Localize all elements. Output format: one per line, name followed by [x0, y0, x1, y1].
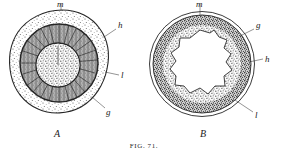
- figure-caption: FIG. 71.: [130, 142, 158, 150]
- panel-b-label-m: m: [196, 0, 203, 9]
- panel-b-caption: B: [200, 128, 206, 139]
- panel-b-label-g: g: [256, 20, 261, 30]
- panel-b-label-h: h: [265, 54, 270, 64]
- figure-illustration: m h l g A: [0, 0, 288, 159]
- panel-a-caption: A: [53, 128, 61, 139]
- panel-a: m h l g A: [0, 0, 140, 139]
- panel-a-label-m: m: [57, 0, 64, 9]
- panel-a-label-h: h: [118, 20, 123, 30]
- figure-plate: m h l g A: [0, 0, 288, 159]
- panel-a-label-g: g: [106, 107, 111, 117]
- panel-b: m g h l B: [145, 0, 270, 139]
